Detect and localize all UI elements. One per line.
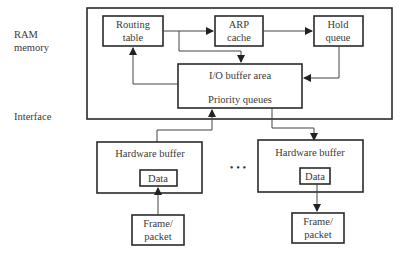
ram-label-line2: memory [14,42,50,53]
ellipsis: • • • [230,162,247,173]
interface-label: Interface [14,111,52,122]
frame-packet-outbound: Frame/ packet [292,213,344,243]
router-memory-diagram: RAM memory Interface Routing table ARP c… [0,0,404,254]
hardware-buffer-outbound: Hardware buffer Data [258,140,363,192]
hardware-buffer-2-title: Hardware buffer [275,147,345,158]
io-buffer-line1: I/O buffer area [209,70,272,81]
ram-label-line1: RAM [14,29,39,40]
data-label-2: Data [305,171,325,182]
frame-1-line1: Frame/ [143,218,173,229]
data-label-1: Data [148,173,168,184]
arp-cache-box: ARP cache [215,16,263,46]
arrow-hw1-to-io [157,110,212,142]
arrow-hold-to-io [304,46,339,78]
frame-packet-inbound: Frame/ packet [132,215,184,245]
io-buffer-line2: Priority queues [208,94,272,105]
frame-2-line2: packet [304,229,331,240]
arp-cache-line2: cache [227,32,251,43]
frame-2-line1: Frame/ [303,216,333,227]
routing-table-box: Routing table [103,16,163,46]
hardware-buffer-inbound: Hardware buffer Data [97,142,202,193]
io-buffer-box: I/O buffer area Priority queues [178,64,302,108]
arp-cache-line1: ARP [229,19,250,30]
hardware-buffer-1-title: Hardware buffer [115,148,185,159]
hold-queue-box: Hold queue [314,16,363,46]
routing-table-line1: Routing [116,19,151,30]
hold-queue-line1: Hold [328,19,350,30]
arrow-io-to-routing [133,48,178,84]
hold-queue-line2: queue [325,32,350,43]
routing-table-line2: table [123,32,144,43]
arrow-io-to-hw2 [272,108,314,140]
frame-1-line2: packet [144,231,171,242]
